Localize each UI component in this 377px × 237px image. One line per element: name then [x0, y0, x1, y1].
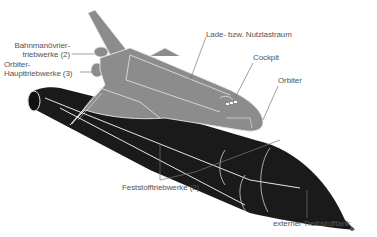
label-orbiter-haupttriebwerke: Orbiter- Haupttriebwerke (3): [4, 60, 72, 78]
label-nutzlastraum: Lade- bzw. Nutzlastraum: [206, 30, 292, 39]
shuttle-illustration: [0, 0, 377, 237]
label-line: Orbiter-: [4, 60, 72, 69]
label-line: Bahnmanövrier-: [4, 41, 70, 50]
label-line: triebwerke (2): [4, 50, 70, 59]
label-feststofftriebwerke: Feststofftriebwerke (2): [122, 183, 199, 192]
space-shuttle-diagram: Bahnmanövrier- triebwerke (2) Orbiter- H…: [0, 0, 377, 237]
label-line: Haupttriebwerke (3): [4, 69, 72, 78]
label-externer-tank: externer Treibstofftank: [273, 219, 350, 228]
orbiter-body: [70, 10, 263, 131]
label-cockpit: Cockpit: [253, 53, 279, 62]
label-bahnmanoevriertriebwerke: Bahnmanövrier- triebwerke (2): [4, 41, 70, 59]
label-orbiter: Orbiter: [278, 76, 302, 85]
